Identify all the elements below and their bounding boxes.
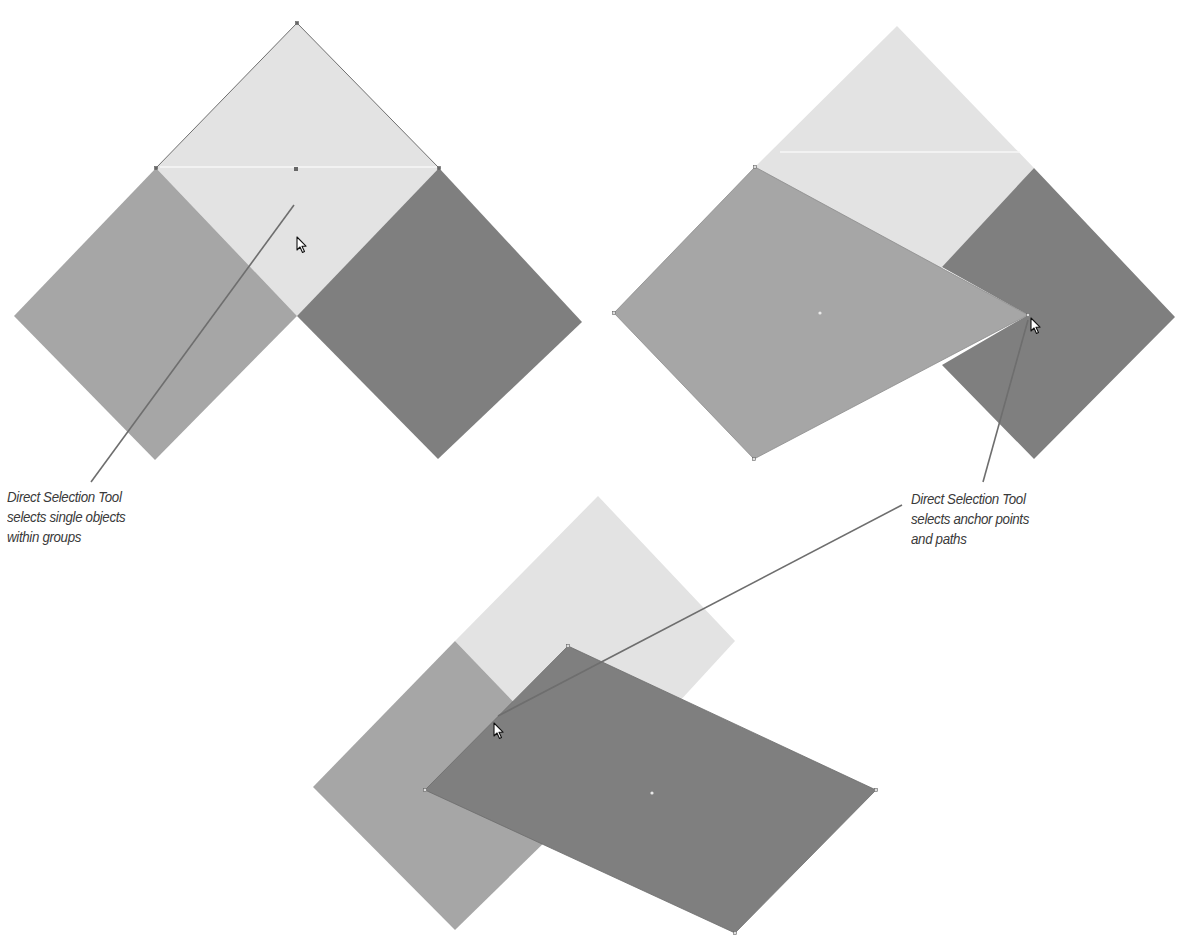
anchor-point-handle[interactable] bbox=[438, 167, 441, 170]
anchor-point-handle[interactable] bbox=[754, 166, 757, 169]
caption-anchor-selection: Direct Selection Tool selects anchor poi… bbox=[911, 489, 1029, 549]
anchor-point-handle[interactable] bbox=[753, 458, 756, 461]
caption-line: within groups bbox=[7, 527, 125, 547]
center-point bbox=[818, 311, 821, 314]
caption-line: Direct Selection Tool bbox=[7, 487, 125, 507]
caption-group-selection: Direct Selection Tool selects single obj… bbox=[7, 487, 125, 547]
anchor-point-handle[interactable] bbox=[1027, 314, 1030, 317]
figure-anchor-dragged bbox=[613, 26, 1176, 461]
anchor-point-handle[interactable] bbox=[613, 312, 616, 315]
diagram-canvas bbox=[0, 0, 1184, 938]
anchor-point-handle[interactable] bbox=[734, 932, 737, 935]
caption-line: Direct Selection Tool bbox=[911, 489, 1029, 509]
anchor-point-handle[interactable] bbox=[155, 167, 158, 170]
anchor-point-handle[interactable] bbox=[875, 789, 878, 792]
center-point bbox=[294, 167, 298, 171]
center-point bbox=[650, 791, 653, 794]
anchor-point-handle[interactable] bbox=[296, 22, 299, 25]
caption-line: and paths bbox=[911, 529, 1029, 549]
anchor-point-handle[interactable] bbox=[424, 789, 427, 792]
caption-line: selects anchor points bbox=[911, 509, 1029, 529]
anchor-point-handle[interactable] bbox=[567, 645, 570, 648]
caption-line: selects single objects bbox=[7, 507, 125, 527]
